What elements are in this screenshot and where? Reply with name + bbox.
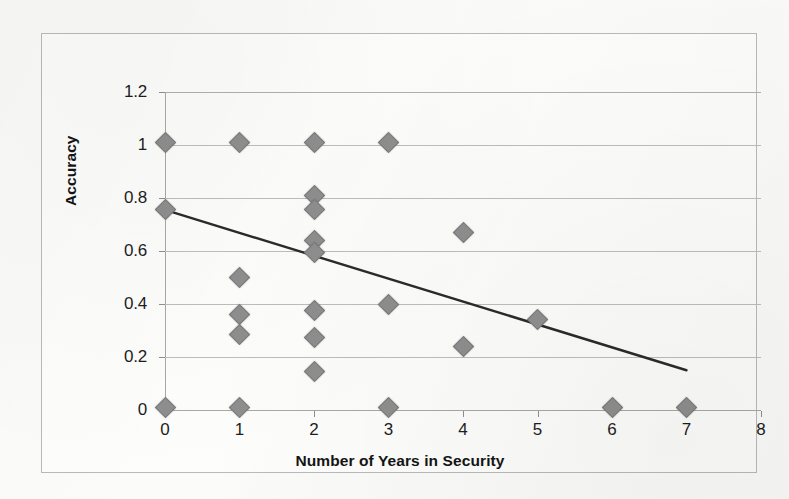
- gridline-y: [165, 145, 761, 146]
- chart-frame: Accuracy Number of Years in Security 00.…: [41, 33, 757, 473]
- gridline-y: [165, 304, 761, 305]
- data-point-marker: [303, 199, 324, 220]
- data-point-marker: [229, 397, 250, 418]
- x-axis-tick-label: 0: [145, 420, 185, 440]
- gridline-y: [165, 251, 761, 252]
- x-axis-tick-label: 3: [369, 420, 409, 440]
- y-axis-tick-label: 0.4: [87, 294, 147, 314]
- data-point-marker: [303, 327, 324, 348]
- data-point-marker: [452, 222, 473, 243]
- trendline-segment: [165, 210, 687, 370]
- x-axis-tick-mark: [538, 411, 539, 417]
- x-axis-tick-label: 4: [443, 420, 483, 440]
- data-point-marker: [601, 397, 622, 418]
- data-point-marker: [303, 361, 324, 382]
- gridline-y: [165, 92, 761, 93]
- data-point-marker: [229, 324, 250, 345]
- y-axis-tick-label: 0.2: [87, 347, 147, 367]
- x-axis-tick-label: 6: [592, 420, 632, 440]
- x-axis-tick-mark: [761, 411, 762, 417]
- y-axis-tick-label: 1: [87, 135, 147, 155]
- data-point-marker: [229, 304, 250, 325]
- x-axis-tick-mark: [463, 411, 464, 417]
- x-axis-tick-label: 8: [741, 420, 781, 440]
- data-point-marker: [452, 336, 473, 357]
- y-axis-tick-label: 0: [87, 400, 147, 420]
- data-point-marker: [303, 242, 324, 263]
- data-point-marker: [154, 199, 175, 220]
- x-axis-tick-label: 1: [220, 420, 260, 440]
- data-point-marker: [676, 397, 697, 418]
- data-point-marker: [154, 132, 175, 153]
- y-axis-tick-label: 0.6: [87, 241, 147, 261]
- x-axis-tick-label: 2: [294, 420, 334, 440]
- data-point-marker: [378, 132, 399, 153]
- data-point-marker: [229, 267, 250, 288]
- y-axis-tick-label: 1.2: [87, 82, 147, 102]
- x-axis-title: Number of Years in Security: [42, 452, 758, 470]
- data-point-marker: [154, 397, 175, 418]
- plot-area: [165, 92, 761, 410]
- x-axis-tick-label: 5: [518, 420, 558, 440]
- data-point-marker: [303, 132, 324, 153]
- x-axis-tick-mark: [314, 411, 315, 417]
- data-point-marker: [527, 309, 548, 330]
- scanned-page-background: Accuracy Number of Years in Security 00.…: [0, 0, 789, 499]
- data-point-marker: [378, 293, 399, 314]
- x-axis-tick-label: 7: [667, 420, 707, 440]
- gridline-y: [165, 198, 761, 199]
- y-axis-tick-label: 0.8: [87, 188, 147, 208]
- data-point-marker: [229, 132, 250, 153]
- data-point-marker: [378, 397, 399, 418]
- y-axis-title: Accuracy: [62, 135, 80, 206]
